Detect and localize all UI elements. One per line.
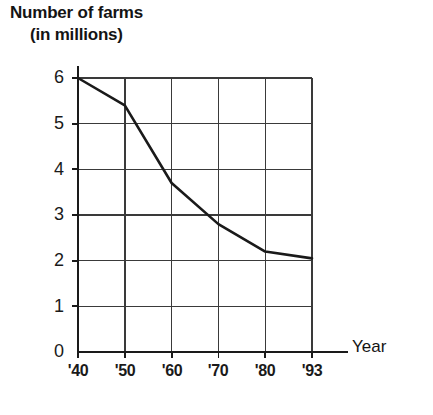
data-series-line [78,78,312,258]
y-tick-label-0: 0 [40,342,64,360]
x-tick-label-80: '80 [243,362,287,380]
horizontal-gridlines [78,78,312,306]
x-tick-label-40: '40 [56,362,100,380]
x-axis-label: Year [352,337,386,357]
y-tick-label-3: 3 [40,205,64,223]
chart-plot-area: 6 5 4 3 2 1 0 '40 '50 '60 '70 '80 '93 Ye… [0,0,433,415]
x-tick-label-93: '93 [290,362,334,380]
y-tick-label-1: 1 [40,297,64,315]
x-tick-label-70: '70 [196,362,240,380]
x-tick-label-60: '60 [150,362,194,380]
y-tick-label-5: 5 [40,114,64,132]
x-tick-label-50: '50 [103,362,147,380]
y-tick-label-4: 4 [40,160,64,178]
y-tick-label-2: 2 [40,251,64,269]
y-tick-label-6: 6 [40,68,64,86]
